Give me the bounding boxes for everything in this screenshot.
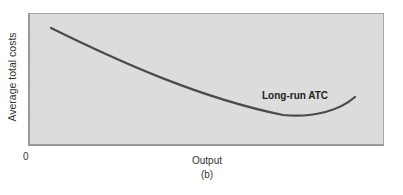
series-label: Long-run ATC <box>262 90 328 101</box>
panel-label: (b) <box>160 169 254 180</box>
x-axis-label: Output <box>160 155 254 166</box>
y-axis-label: Average total costs <box>6 17 18 137</box>
origin-label: 0 <box>23 151 29 162</box>
